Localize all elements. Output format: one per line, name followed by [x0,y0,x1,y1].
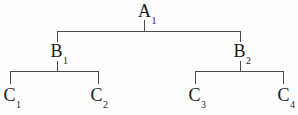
tree-node-b2: B2 [233,42,250,60]
node-c4-label: C [277,85,289,105]
node-c2-subscript: 2 [103,99,108,110]
tree-node-c4: C4 [277,86,294,104]
node-b2-label: B [233,41,245,61]
node-c1-label: C [3,85,15,105]
node-a1-label: A [138,1,151,21]
node-b1-subscript: 1 [63,55,68,66]
node-b2-subscript: 2 [246,55,251,66]
node-c3-label: C [188,85,200,105]
node-b1-label: B [50,41,62,61]
tree-node-b1: B1 [50,42,67,60]
tree-node-c3: C3 [188,86,205,104]
tree-diagram: A1 B1 B2 C1 C2 C3 C4 [0,0,298,115]
tree-node-c2: C2 [90,86,107,104]
node-c1-subscript: 1 [16,99,21,110]
node-c3-subscript: 3 [201,99,206,110]
node-c4-subscript: 4 [290,99,295,110]
node-c2-label: C [90,85,102,105]
tree-node-c1: C1 [3,86,20,104]
node-a1-subscript: 1 [152,15,157,26]
tree-node-a1: A1 [138,2,156,20]
